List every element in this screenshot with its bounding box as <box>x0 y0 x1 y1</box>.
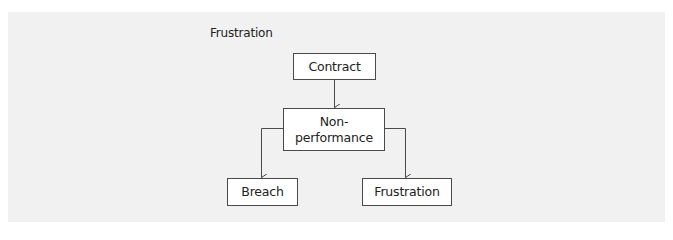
node-contract-label: Contract <box>308 59 360 75</box>
node-breach-label: Breach <box>241 184 283 200</box>
node-non-performance: Non- performance <box>283 108 385 151</box>
node-frustration: Frustration <box>362 178 452 206</box>
node-non-performance-label-line2: performance <box>295 130 373 146</box>
node-breach: Breach <box>227 178 298 206</box>
diagram-title: Frustration <box>210 26 273 40</box>
node-non-performance-label-line1: Non- <box>320 114 349 130</box>
node-contract: Contract <box>293 53 376 80</box>
node-frustration-label: Frustration <box>374 184 439 200</box>
